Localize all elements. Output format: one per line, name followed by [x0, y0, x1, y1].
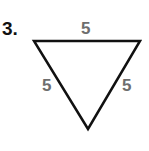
diagram-canvas: 3. 5 5 5	[0, 0, 149, 151]
side-label-top: 5	[81, 20, 90, 37]
side-label-left: 5	[42, 77, 51, 94]
side-label-right: 5	[122, 77, 131, 94]
